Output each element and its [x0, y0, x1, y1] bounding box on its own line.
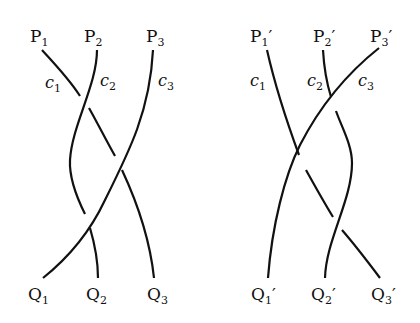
left-braid: P1 P2 P3 c1 c2 c3 Q1 Q2 Q3 [28, 26, 174, 307]
strand-c1-prime [342, 230, 380, 278]
strand-c1 [122, 170, 154, 278]
label-p1: P1 [30, 26, 48, 49]
label-c3: c3 [158, 71, 174, 93]
braid-diagrams: P1 P2 P3 c1 c2 c3 Q1 Q2 Q3 P1′ P2′ P3′ c… [0, 0, 420, 323]
label-q3: Q3 [147, 284, 168, 307]
strand-c2-prime [323, 50, 331, 97]
strand-c2-prime [325, 111, 352, 278]
label-q1: Q1 [28, 284, 49, 307]
label-q3-prime: Q3′ [371, 284, 396, 307]
right-braid: P1′ P2′ P3′ c1 c2 c3 Q1′ Q2′ Q3′ [250, 26, 396, 307]
label-p3: P3 [146, 26, 164, 49]
label-q1-prime: Q1′ [251, 284, 276, 307]
label-p1-prime: P1′ [250, 26, 272, 49]
label-q2: Q2 [86, 284, 107, 307]
label-c1: c1 [45, 73, 61, 95]
strand-c1 [89, 108, 115, 156]
label-p3-prime: P3′ [370, 26, 392, 49]
label-p2-prime: P2′ [313, 26, 335, 49]
strand-c1-prime [306, 170, 333, 217]
label-p2: P2 [84, 26, 102, 49]
label-c3-prime: c3 [358, 71, 374, 93]
label-c1-prime: c1 [250, 71, 266, 93]
strand-c2 [90, 228, 98, 278]
label-q2-prime: Q2′ [311, 284, 336, 307]
strand-c1-prime [267, 50, 299, 155]
strand-c2 [70, 50, 97, 214]
label-c2: c2 [100, 71, 116, 93]
label-c2-prime: c2 [307, 71, 323, 93]
